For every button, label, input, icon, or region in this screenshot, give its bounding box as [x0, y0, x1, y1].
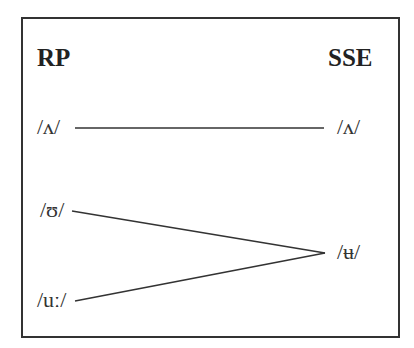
link-goose-u-bar [75, 253, 325, 301]
correspondence-lines [0, 0, 414, 348]
link-foot-u-bar [72, 211, 325, 253]
